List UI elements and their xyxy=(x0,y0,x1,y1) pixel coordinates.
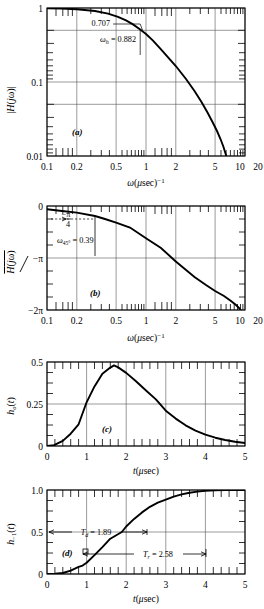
panel-c-xtick-3: 3 xyxy=(163,452,168,462)
panel-a-xtick-4: 2 xyxy=(173,162,178,172)
panel-c-xlabel: t(μsec) xyxy=(133,466,159,477)
panel-d-svg: h−1(t) xyxy=(0,478,264,609)
panel-d-xtick-4: 4 xyxy=(203,580,208,590)
panel-c-ytick-025: 0.25 xyxy=(26,400,43,410)
panel-c-ytick-0: 0 xyxy=(38,442,43,452)
tr-label: Tr = 2.58 xyxy=(143,550,173,560)
angle-symbol-icon xyxy=(20,256,28,272)
panel-a-level-label: 0.707 xyxy=(92,19,110,28)
panel-c-id: (c) xyxy=(102,424,112,434)
panel-a-ytick-01: 0.1 xyxy=(31,78,43,88)
panel-b-xtick-0: 0.1 xyxy=(41,316,53,326)
panel-a-xtick-7: 20 xyxy=(253,162,263,172)
panel-b-svg: H(jω) xyxy=(0,196,264,356)
panel-b-xtick-4: 2 xyxy=(173,316,178,326)
panel-a-cutoff-label: ωh = 0.882 xyxy=(100,35,136,45)
panel-phase: H(jω) xyxy=(0,196,264,356)
panel-b-xtick-5: 5 xyxy=(213,316,218,326)
panel-c-ylabel: ho(t) xyxy=(5,397,17,415)
panel-d-ytick-05: 0.5 xyxy=(31,528,43,538)
panel-a-ytick-1: 1 xyxy=(38,4,43,14)
panel-a-xtick-2: 0.5 xyxy=(110,162,122,172)
panel-b-ytick-pi: −π xyxy=(33,254,43,264)
panel-d-xtick-2: 2 xyxy=(124,580,129,590)
phase-curve xyxy=(47,209,241,310)
panel-c-grid xyxy=(47,362,245,446)
td-label: Td = 1.89 xyxy=(81,528,112,538)
panel-b-pi4-denom: 4 xyxy=(66,220,70,229)
panel-d-xlabel: t(μsec) xyxy=(133,594,159,605)
panel-b-phase-freq-label: ω45° = 0.39 xyxy=(57,236,94,246)
panel-d-xtick-5: 5 xyxy=(243,580,248,590)
panel-c-svg: ho(t) xyxy=(0,350,264,480)
panel-a-xtick-0: 0.1 xyxy=(41,162,53,172)
panel-d-ylabel: h−1(t) xyxy=(5,523,17,544)
panel-d-xtick-0: 0 xyxy=(45,580,50,590)
panel-a-xlabel: ω(μsec)−1 xyxy=(127,177,165,189)
panel-b-id: (b) xyxy=(90,288,101,298)
panel-b-xtick-7: 20 xyxy=(253,316,263,326)
impulse-response-curve xyxy=(47,365,245,446)
panel-a-xtick-3: 1 xyxy=(144,162,149,172)
panel-a-ylabel: |H(jω)| xyxy=(5,86,17,113)
panel-b-grid xyxy=(47,206,245,310)
panel-c-xtick-1: 1 xyxy=(84,452,89,462)
panel-a-ytick-001: 0.01 xyxy=(26,152,43,162)
panel-c-ytick-05: 0.5 xyxy=(31,358,43,368)
panel-d-id: (d) xyxy=(62,548,73,558)
panel-a-xtick-1: 0.2 xyxy=(71,162,83,172)
panel-b-ytick-2pi: −2π xyxy=(28,306,43,316)
panel-b-ylabel: H(jω) xyxy=(5,250,17,274)
panel-a-svg: |H(jω)| xyxy=(0,0,264,200)
panel-b-xtick-3: 1 xyxy=(144,316,149,326)
panel-magnitude: |H(jω)| xyxy=(0,0,264,200)
panel-d-ytick-0: 0 xyxy=(38,570,43,580)
panel-step-response: h−1(t) xyxy=(0,478,264,609)
panel-d-ytick-1: 1.0 xyxy=(31,486,43,496)
panel-c-xtick-0: 0 xyxy=(45,452,50,462)
panel-impulse-response: ho(t) xyxy=(0,350,264,480)
panel-a-xtick-6: 10 xyxy=(235,162,245,172)
panel-b-xtick-6: 10 xyxy=(235,316,245,326)
panel-b-pi4-label: −π xyxy=(62,210,72,219)
panel-b-xtick-2: 0.5 xyxy=(110,316,122,326)
panel-b-ytick-0: 0 xyxy=(38,202,43,212)
panel-a-xtick-5: 5 xyxy=(213,162,218,172)
panel-b-xtick-1: 0.2 xyxy=(71,316,83,326)
panel-c-xtick-2: 2 xyxy=(124,452,129,462)
panel-b-xlabel: ω(μsec)−1 xyxy=(127,332,165,344)
panel-a-id: (a) xyxy=(72,127,83,137)
panel-c-xtick-5: 5 xyxy=(243,452,248,462)
panel-c-xtick-4: 4 xyxy=(203,452,208,462)
panel-d-xtick-1: 1 xyxy=(84,580,89,590)
panel-d-xtick-3: 3 xyxy=(163,580,168,590)
